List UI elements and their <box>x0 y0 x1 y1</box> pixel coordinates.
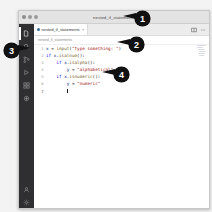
minimize-window-button[interactable] <box>28 15 32 19</box>
line-number-7: 7 <box>34 88 46 95</box>
code-token: (): <box>87 60 95 65</box>
extensions-icon <box>23 82 30 89</box>
code-text-6: y = "numeric" <box>46 80 209 87</box>
sidebar-item-explorer[interactable] <box>19 27 34 40</box>
codetogether-icon <box>23 95 30 102</box>
code-token: "Type something: " <box>72 46 119 51</box>
vscode-window: nested_if_statements <box>18 10 210 209</box>
account-icon <box>23 186 30 193</box>
annotation-tail-3 <box>18 45 31 51</box>
files-icon <box>23 30 30 37</box>
source-control-icon <box>23 56 30 63</box>
code-token: if <box>46 53 54 58</box>
sidebar-item-codetogether[interactable] <box>19 92 34 105</box>
code-token: ) <box>118 46 121 51</box>
traffic-lights[interactable] <box>19 15 38 19</box>
code-token: "numeric" <box>77 81 100 86</box>
annotation-marker-1: 1 <box>135 11 150 26</box>
code-token: (): <box>77 53 85 58</box>
code-token <box>46 89 67 94</box>
title-bar: nested_if_statements <box>19 11 209 24</box>
code-token: isnumeric <box>69 74 92 79</box>
sidebar-item-settings[interactable] <box>19 196 34 209</box>
sidebar-item-accounts[interactable] <box>19 183 34 196</box>
code-token: isalpha <box>69 60 87 65</box>
window-title: nested_if_statements <box>19 15 209 20</box>
line-number-1: 1 <box>34 45 46 52</box>
tab-bar: nested_if_statements × <box>34 24 209 36</box>
annotation-marker-3: 3 <box>4 43 19 58</box>
code-token: input <box>56 46 69 51</box>
code-line-2[interactable]: 2if x.isalnum(): <box>34 52 209 59</box>
line-number-4: 4 <box>34 66 46 73</box>
code-text-1: x = input("Type something: ") <box>46 45 209 52</box>
annotation-marker-4: 4 <box>114 67 129 82</box>
line-number-2: 2 <box>34 52 46 59</box>
code-line-7[interactable]: 7 <box>34 88 209 95</box>
breadcrumb-item-file[interactable]: nested_if_statements <box>38 38 72 42</box>
split-editor-icon[interactable] <box>191 27 197 33</box>
code-token <box>46 67 67 72</box>
screenshot-root: nested_if_statements <box>0 0 212 212</box>
close-window-button[interactable] <box>22 15 26 19</box>
code-token: if <box>56 74 64 79</box>
python-file-icon <box>37 28 40 31</box>
activity-bar <box>19 24 34 209</box>
editor-actions <box>191 24 209 35</box>
sidebar-item-run-and-debug[interactable] <box>19 66 34 79</box>
code-token: isalnum <box>59 53 77 58</box>
sidebar-item-extensions[interactable] <box>19 79 34 92</box>
ellipsis-icon[interactable] <box>200 27 206 33</box>
code-text-7 <box>46 88 209 95</box>
code-line-1[interactable]: 1x = input("Type something: ") <box>34 45 209 52</box>
text-cursor <box>67 89 68 94</box>
sidebar-item-source-control[interactable] <box>19 53 34 66</box>
tab-label: nested_if_statements <box>42 27 80 32</box>
minimap[interactable] <box>195 45 209 209</box>
line-number-3: 3 <box>34 59 46 66</box>
zoom-window-button[interactable] <box>34 15 38 19</box>
run-debug-icon <box>23 69 30 76</box>
annotation-marker-2: 2 <box>129 37 144 52</box>
tab-nested-if-statements[interactable]: nested_if_statements × <box>34 24 88 35</box>
line-number-5: 5 <box>34 73 46 80</box>
gear-icon <box>23 199 30 206</box>
code-text-3: if x.isalpha(): <box>46 59 209 66</box>
line-number-6: 6 <box>34 80 46 87</box>
code-token: (): <box>93 74 101 79</box>
code-token <box>46 81 67 86</box>
editor-area: nested_if_statements × <box>34 24 209 209</box>
code-text-2: if x.isalnum(): <box>46 52 209 59</box>
code-token <box>46 74 56 79</box>
close-icon[interactable]: × <box>82 27 84 32</box>
code-token: if <box>56 60 64 65</box>
code-token <box>46 60 56 65</box>
window-body: nested_if_statements × <box>19 24 209 209</box>
code-line-3[interactable]: 3 if x.isalpha(): <box>34 59 209 66</box>
